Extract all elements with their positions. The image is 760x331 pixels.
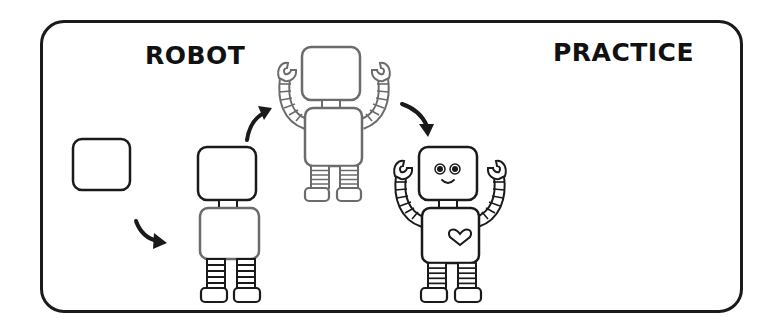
arrow-1-icon	[136, 221, 167, 249]
robot-steps-illustration	[0, 0, 760, 331]
step-1-head	[73, 139, 130, 190]
arrow-3-icon	[402, 104, 434, 137]
step-3-robot	[278, 47, 390, 201]
arrow-2-icon	[247, 106, 272, 140]
step-2-robot	[198, 147, 260, 302]
step-4-robot	[394, 147, 506, 302]
